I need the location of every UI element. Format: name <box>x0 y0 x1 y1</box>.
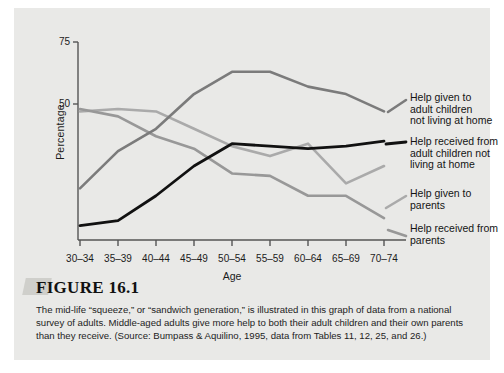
x-tick-label: 50–54 <box>212 253 252 264</box>
x-tick-label: 65–69 <box>326 253 366 264</box>
x-tick-label: 70–74 <box>364 253 404 264</box>
chart-area: Percentage 507530–3435–3940–4445–4950–54… <box>14 8 490 276</box>
x-tick-label: 55–59 <box>250 253 290 264</box>
legend-entry: Help received fromparents <box>410 223 504 246</box>
legend-label-line: Help received from <box>410 223 504 235</box>
caption-block: FIGURE 16.1 The mid-life “squeeze,” or “… <box>14 276 490 360</box>
legend-label-line: Help received from <box>410 136 504 148</box>
x-tick-label: 35–39 <box>98 253 138 264</box>
x-tick-label: 40–44 <box>136 253 176 264</box>
legend-entry: Help received fromadult children notlivi… <box>410 136 504 171</box>
legend-label-line: Help given to <box>410 92 504 104</box>
figure-number: FIGURE 16.1 <box>36 278 139 298</box>
figure-panel: Percentage 507530–3435–3940–4445–4950–54… <box>14 8 490 360</box>
x-tick-label: 45–49 <box>174 253 214 264</box>
legend-label-line: parents <box>410 235 504 247</box>
legend-entry: Help given toparents <box>410 188 504 211</box>
legend-label-line: not living at home <box>410 115 504 127</box>
x-tick-label: 60–64 <box>288 253 328 264</box>
y-tick-label: 50 <box>44 98 70 109</box>
legend-label-line: parents <box>410 200 504 212</box>
figure-caption: The mid-life “squeeze,” or “sandwich gen… <box>36 303 476 343</box>
legend-label-line: Help given to <box>410 188 504 200</box>
legend-label-line: living at home <box>410 159 504 171</box>
x-tick-label: 30–34 <box>60 253 100 264</box>
y-tick-label: 75 <box>44 36 70 47</box>
legend-entry: Help given toadult childrennot living at… <box>410 92 504 127</box>
